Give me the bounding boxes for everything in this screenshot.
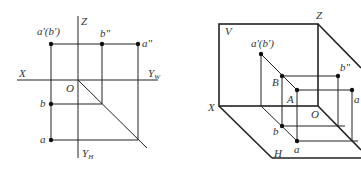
label-iso-A: A (286, 93, 294, 105)
label-iso-b: b (273, 125, 279, 137)
projection-figure: Z X YW YH O a'(b') b" a" b a (0, 0, 361, 176)
label-b: b (40, 97, 46, 109)
iso-point-B (280, 74, 284, 78)
y-axis (318, 106, 361, 150)
point-a-double-prime (136, 42, 140, 46)
label-yw: YW (148, 67, 161, 81)
point-a-prime (49, 42, 53, 46)
point-b-double-prime (100, 42, 104, 46)
label-iso-z: Z (316, 9, 323, 21)
projector-x-to-a (261, 106, 297, 141)
point-b (49, 102, 53, 106)
label-iso-a-double-prime: a (354, 93, 360, 105)
miter-line (78, 80, 147, 148)
label-a-double-prime: a" (142, 37, 153, 49)
label-iso-b-double-prime: b" (340, 61, 351, 73)
label-a: a (40, 133, 46, 145)
label-x: X (18, 67, 27, 79)
left-projection-diagram: Z X YW YH O a'(b') b" a" b a (17, 15, 161, 161)
point-a (49, 138, 53, 142)
label-origin: O (66, 82, 74, 94)
label-z: Z (81, 15, 88, 27)
label-iso-a: a (294, 143, 300, 155)
label-iso-origin: O (311, 108, 319, 120)
h-plane-left-edge (219, 106, 272, 158)
iso-point-b (280, 124, 284, 128)
label-iso-B: B (272, 76, 279, 88)
label-yh: YH (82, 147, 94, 161)
label-a-prime-b-prime: a'(b') (37, 25, 60, 38)
iso-point-b-double-prime (336, 74, 340, 78)
right-isometric-diagram: V Z X O a'(b') B A b" a b a H (207, 9, 361, 159)
iso-point-a-double-prime (350, 88, 354, 92)
label-iso-a-prime-b-prime: a'(b') (251, 37, 274, 50)
label-h-plane: H (273, 147, 283, 159)
iso-point-a-prime (259, 52, 263, 56)
label-b-double-prime: b" (100, 27, 111, 39)
label-v-plane: V (225, 25, 233, 37)
iso-point-A (295, 88, 299, 92)
label-iso-x: X (207, 101, 216, 113)
projector-a-prime-A (261, 54, 297, 90)
